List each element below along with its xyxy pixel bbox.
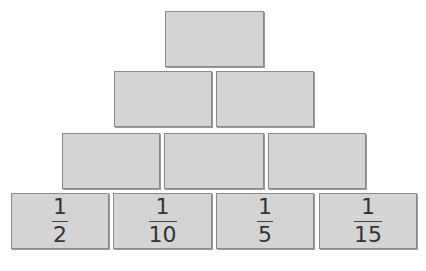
pyramid-brick-base-2: 1 10: [113, 193, 212, 249]
fraction: 1 15: [354, 196, 382, 247]
pyramid-brick-row3-3[interactable]: [268, 133, 366, 189]
numerator: 1: [361, 196, 375, 218]
fraction: 1 2: [52, 196, 68, 247]
denominator: 5: [258, 224, 272, 246]
pyramid-brick-row3-2[interactable]: [164, 133, 264, 189]
pyramid-brick-top[interactable]: [165, 11, 264, 67]
pyramid-brick-base-3: 1 5: [216, 193, 314, 249]
numerator: 1: [258, 196, 272, 218]
pyramid-brick-row3-1[interactable]: [62, 133, 160, 189]
numerator: 1: [156, 196, 170, 218]
fraction: 1 10: [149, 196, 177, 247]
pyramid-brick-base-4: 1 15: [319, 193, 417, 249]
numerator: 1: [53, 196, 67, 218]
denominator: 2: [53, 224, 67, 246]
denominator: 15: [354, 224, 382, 246]
pyramid-brick-row2-1[interactable]: [114, 71, 212, 127]
pyramid-brick-row2-2[interactable]: [216, 71, 314, 127]
pyramid-brick-base-1: 1 2: [11, 193, 109, 249]
denominator: 10: [149, 224, 177, 246]
fraction: 1 5: [257, 196, 273, 247]
